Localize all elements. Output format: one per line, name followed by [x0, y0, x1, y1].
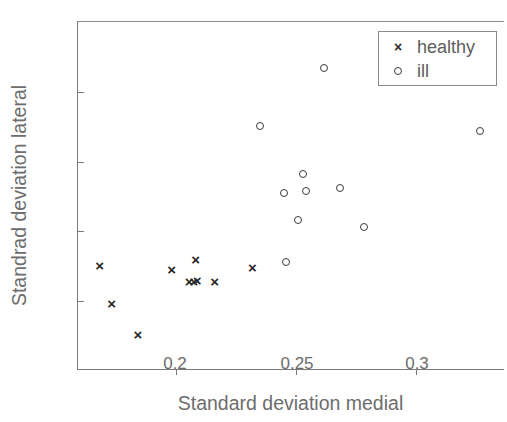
- circle-marker-icon: [280, 189, 288, 197]
- legend-x-marker-icon: ×: [379, 39, 417, 55]
- x-tick-mark: [416, 369, 417, 375]
- legend: × healthy ill: [378, 31, 497, 86]
- y-axis-label: Standrad deviation lateral: [6, 21, 32, 370]
- legend-o-marker-icon: [379, 67, 417, 75]
- x-marker-icon: ×: [167, 261, 176, 276]
- legend-entry-ill: ill: [379, 58, 496, 84]
- x-marker-icon: ×: [248, 260, 257, 275]
- circle-marker-icon: [294, 216, 302, 224]
- y-tick-mark: [78, 162, 84, 163]
- x-marker-icon: ×: [134, 327, 143, 342]
- circle-marker-icon: [256, 122, 264, 130]
- x-tick-mark: [176, 369, 177, 375]
- legend-entry-healthy: × healthy: [379, 34, 496, 60]
- y-tick-mark: [78, 301, 84, 302]
- scatter-plot-figure: 0.4 0.35 0.3 0.25 0.2 0.15 0.2 0.25 0.3 …: [0, 0, 507, 422]
- circle-marker-icon: [282, 258, 290, 266]
- y-tick-mark: [78, 231, 84, 232]
- circle-marker-icon: [320, 64, 328, 72]
- x-tick-mark: [296, 369, 297, 375]
- circle-marker-icon: [336, 184, 344, 192]
- circle-marker-icon: [299, 170, 307, 178]
- circle-marker-icon: [476, 127, 484, 135]
- x-marker-icon: ×: [193, 272, 202, 287]
- x-marker-icon: ×: [95, 257, 104, 272]
- y-tick-mark: [78, 92, 84, 93]
- x-marker-icon: ×: [107, 296, 116, 311]
- x-axis-label: Standard deviation medial: [77, 392, 504, 415]
- circle-marker-icon: [360, 223, 368, 231]
- legend-label: ill: [417, 61, 429, 82]
- legend-label: healthy: [417, 37, 475, 58]
- x-marker-icon: ×: [191, 251, 200, 266]
- x-marker-icon: ×: [210, 273, 219, 288]
- circle-marker-icon: [302, 187, 310, 195]
